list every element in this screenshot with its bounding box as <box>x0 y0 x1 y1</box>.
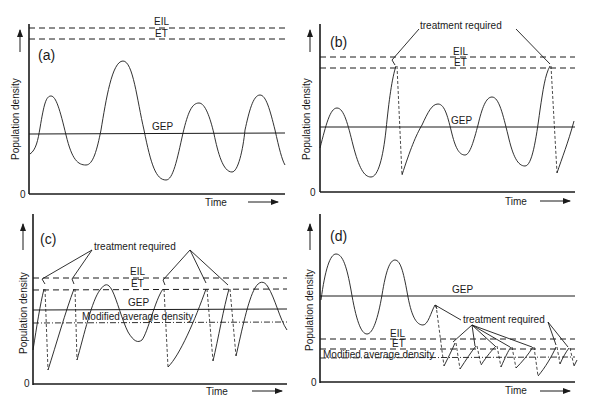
treatment-pointer <box>42 250 92 284</box>
treatment-drop <box>456 343 460 369</box>
treatment-pointer <box>548 322 568 347</box>
population-curve <box>538 347 556 376</box>
eil-label: EIL <box>154 16 169 27</box>
treatment-pointer <box>435 305 461 320</box>
treatment-drop <box>436 305 444 366</box>
treatment-required-label: treatment required <box>463 314 545 325</box>
treatment-required-label: treatment required <box>94 241 176 252</box>
gep-label: GEP <box>128 297 149 308</box>
y-axis-label: Population density <box>304 269 315 351</box>
x-axis-label: Time <box>206 386 228 397</box>
panel-a: Population density Time 0 (a) EIL ET GEP <box>10 16 285 208</box>
population-curve <box>574 360 577 366</box>
gep-label: GEP <box>451 115 472 126</box>
panel-label: (c) <box>40 231 56 247</box>
treatment-pointer <box>472 325 510 347</box>
x-axis-label: Time <box>205 197 227 208</box>
y-axis-label: Population density <box>10 78 21 160</box>
y-axis-label: Population density <box>301 78 312 160</box>
x-axis-label: Time <box>505 385 527 396</box>
origin-label: 0 <box>310 187 316 198</box>
population-curve <box>444 343 455 366</box>
pest-population-diagram: Population density Time 0 (a) EIL ET GEP… <box>0 0 591 410</box>
et-label: ET <box>155 28 168 39</box>
et-label: ET <box>131 278 144 289</box>
population-curve <box>168 289 206 367</box>
modified-average-density-label: Modified average density <box>323 349 434 360</box>
origin-label: 0 <box>311 377 317 388</box>
treatment-pointer <box>548 322 556 345</box>
modified-average-density-line <box>33 322 287 323</box>
treatment-drop <box>551 66 557 173</box>
treatment-drop <box>164 289 168 367</box>
origin-label: 0 <box>20 189 26 200</box>
treatment-drop <box>534 347 538 376</box>
treatment-drop <box>397 66 402 175</box>
eil-label: EIL <box>453 46 468 57</box>
population-curve <box>213 289 229 361</box>
panel-b: Population density Time 0 (b) EIL ET GEP… <box>301 20 575 207</box>
panel-c: Population density Time 0 (c) EIL ET GEP… <box>18 214 287 397</box>
origin-label: 0 <box>24 378 30 389</box>
population-curve <box>33 289 44 350</box>
treatment-drop <box>45 289 48 370</box>
gep-line <box>33 309 287 310</box>
treatment-drop <box>557 347 560 364</box>
panel-d: Population density Time 0 (d) GEP EIL ET… <box>304 214 577 396</box>
panel-label: (b) <box>330 34 347 50</box>
population-curve <box>402 66 550 175</box>
treatment-pointer <box>516 29 550 64</box>
population-curve <box>320 66 396 177</box>
population-curve <box>560 348 569 364</box>
panel-label: (a) <box>38 47 55 63</box>
eil-label: EIL <box>130 266 145 277</box>
population-curve <box>48 289 74 370</box>
treatment-required-label: treatment required <box>420 20 502 31</box>
treatment-drop <box>75 289 77 360</box>
et-label: ET <box>454 57 467 68</box>
x-axis-label: Time <box>505 196 527 207</box>
modified-average-density-label: Modified average density <box>82 311 193 322</box>
treatment-pointer <box>190 250 228 285</box>
et-label: ET <box>392 338 405 349</box>
panel-label: (d) <box>330 228 347 244</box>
treatment-pointer <box>72 250 92 284</box>
treatment-pointer <box>472 325 475 346</box>
treatment-pointer <box>392 29 419 65</box>
treatment-drop <box>207 289 213 361</box>
population-curve <box>321 254 435 334</box>
gep-label: GEP <box>452 284 473 295</box>
gep-line <box>29 133 285 134</box>
y-axis-label: Population density <box>18 272 29 354</box>
gep-label: GEP <box>152 121 173 132</box>
treatment-pointer <box>472 325 495 346</box>
et-line <box>33 289 287 290</box>
treatment-pointer <box>163 250 190 285</box>
population-curve <box>236 282 287 356</box>
population-curve <box>557 121 574 173</box>
treatment-pointer <box>472 325 532 347</box>
